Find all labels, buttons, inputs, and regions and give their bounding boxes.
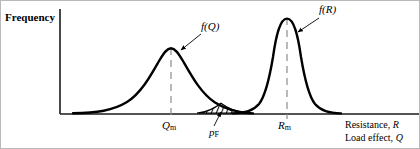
x-axis-caption-resistance-text: Resistance, [345,119,393,130]
fr-leader-arrow [298,18,319,32]
tick-label-qm-base: Q [162,119,170,131]
curve-label-fq: f(Q) [201,21,219,32]
x-axis-caption-resistance-var: R [393,119,399,130]
x-axis-caption: Resistance, R Load effect, Q [345,119,403,144]
x-axis-caption-load-effect-var: Q [396,132,403,143]
x-axis-caption-line-load-effect: Load effect, Q [345,132,403,145]
tick-label-qm-subscript: m [170,123,176,132]
tick-label-qm: Qm [162,120,176,132]
curve-fq [73,48,253,113]
tick-label-pf: pF [209,127,219,139]
distribution-curves [73,19,341,114]
x-axis-caption-line-resistance: Resistance, R [345,119,403,132]
curve-label-fr: f(R) [319,4,336,15]
axis-group [60,9,420,114]
x-axis-caption-load-effect-text: Load effect, [345,132,396,143]
tick-label-rm: Rm [278,120,291,132]
frequency-distribution-figure: Frequency f(Q) f(R) Qm Rm pF Resistance,… [0,0,420,149]
fq-leader-arrow [181,34,201,50]
tick-label-rm-base: R [278,119,285,131]
tick-label-pf-subscript: F [215,130,219,139]
tick-label-rm-subscript: m [285,123,291,132]
y-axis-label: Frequency [5,12,55,23]
